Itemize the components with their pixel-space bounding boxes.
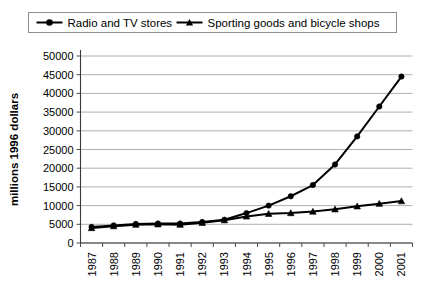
x-tick-label: 1995 (263, 252, 275, 276)
y-tick-labels-group: 0500010000150002000025000300003500040000… (43, 50, 74, 249)
y-tick-label: 40000 (43, 87, 74, 99)
x-tick-label: 1999 (351, 252, 363, 276)
legend-label: Radio and TV stores (68, 17, 173, 29)
x-tick-label: 2001 (395, 252, 407, 276)
series-line (92, 77, 402, 227)
y-axis-title-text: millions 1996 dollars (8, 93, 20, 206)
legend-label: Sporting goods and bicycle shops (208, 17, 380, 29)
x-tick-label: 1994 (241, 252, 253, 276)
x-tickmarks-group (81, 243, 413, 247)
y-tick-label: 0 (67, 237, 73, 249)
chart-legend: Radio and TV storesSporting goods and bi… (29, 13, 397, 33)
y-tickmarks-group (77, 56, 81, 243)
chart-container: 0500010000150002000025000300003500040000… (0, 0, 426, 297)
series-triangle (88, 198, 404, 231)
data-point-marker (266, 203, 271, 208)
y-tick-label: 15000 (43, 181, 74, 193)
line-chart: 0500010000150002000025000300003500040000… (0, 0, 426, 297)
y-tick-label: 10000 (43, 200, 74, 212)
x-tick-label: 1996 (285, 252, 297, 276)
data-point-marker (377, 104, 382, 109)
x-tick-label: 1988 (108, 252, 120, 276)
data-point-marker (288, 194, 293, 199)
x-tick-label: 1993 (218, 252, 230, 276)
legend-item-1[interactable]: Sporting goods and bicycle shops (177, 17, 380, 29)
legend-marker-circle-icon (46, 19, 53, 26)
x-tick-label: 1989 (130, 252, 142, 276)
x-tick-label: 1992 (196, 252, 208, 276)
x-tick-label: 1987 (86, 252, 98, 276)
y-tick-label: 5000 (49, 218, 73, 230)
x-tick-label: 1991 (174, 252, 186, 276)
y-tick-label: 30000 (43, 125, 74, 137)
y-tick-label: 35000 (43, 106, 74, 118)
series-group (88, 74, 404, 231)
x-tick-labels-group: 1987198819891990199119921993199419951996… (86, 252, 408, 276)
y-tick-label: 50000 (43, 50, 74, 62)
data-point-marker (332, 162, 337, 167)
data-point-marker (310, 182, 315, 187)
x-tick-label: 1997 (307, 252, 319, 276)
y-tick-label: 20000 (43, 162, 74, 174)
y-tick-label: 45000 (43, 69, 74, 81)
x-tick-label: 2000 (373, 252, 385, 276)
data-point-marker (399, 74, 404, 79)
y-tick-label: 25000 (43, 144, 74, 156)
y-axis-title: millions 1996 dollars (8, 93, 20, 206)
x-tick-label: 1998 (329, 252, 341, 276)
data-point-marker (354, 134, 359, 139)
x-tick-label: 1990 (152, 252, 164, 276)
